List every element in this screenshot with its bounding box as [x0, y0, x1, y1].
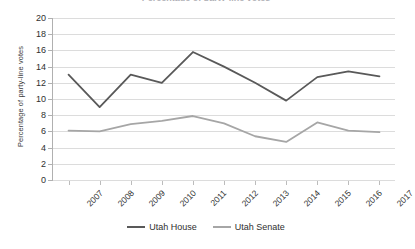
y-axis-tick-mark — [48, 83, 53, 84]
legend-item-utah-house[interactable]: Utah House — [127, 222, 197, 232]
legend-swatch-icon — [213, 226, 231, 228]
series-layer — [53, 18, 395, 180]
x-axis-tick-mark — [286, 181, 287, 185]
legend-swatch-icon — [127, 226, 145, 228]
x-axis-tick-label: 2015 — [333, 188, 353, 208]
y-axis-tick-mark — [48, 131, 53, 132]
y-axis-tick-mark — [48, 180, 53, 181]
y-axis-tick-label: 2 — [10, 159, 46, 169]
y-axis-tick-label: 20 — [10, 13, 46, 23]
x-axis-tick-mark — [131, 181, 132, 185]
x-axis-tick-mark — [348, 181, 349, 185]
x-axis-tick-mark — [69, 181, 70, 185]
y-axis-tick-label: 16 — [10, 45, 46, 55]
y-axis-tick-label: 18 — [10, 29, 46, 39]
x-axis-tick-label: 2017 — [395, 188, 415, 208]
y-axis-tick-mark — [48, 34, 53, 35]
chart-title-cropped: Percentage of party-line votes — [0, 0, 412, 1]
x-axis-tick-label: 2016 — [364, 188, 384, 208]
x-axis-tick-label: 2009 — [146, 188, 166, 208]
x-axis-tick-mark — [193, 181, 194, 185]
x-axis-tick-label: 2014 — [302, 188, 322, 208]
legend-label: Utah Senate — [235, 222, 285, 232]
series-line-utah-senate — [69, 116, 380, 142]
y-axis-tick-mark — [48, 67, 53, 68]
x-axis-tick-mark — [255, 181, 256, 185]
y-axis-tick-label: 4 — [10, 143, 46, 153]
y-axis-tick-mark — [48, 99, 53, 100]
x-axis-tick-label: 2012 — [240, 188, 260, 208]
x-axis-tick-label: 2008 — [115, 188, 135, 208]
y-axis-tick-mark — [48, 148, 53, 149]
y-axis-tick-mark — [48, 50, 53, 51]
y-axis-tick-label: 10 — [10, 94, 46, 104]
y-axis-tick-mark — [48, 18, 53, 19]
y-axis-tick-mark — [48, 115, 53, 116]
x-axis-tick-mark — [224, 181, 225, 185]
y-axis-tick-label: 8 — [10, 110, 46, 120]
y-axis-tick-label: 12 — [10, 78, 46, 88]
x-axis-tick-mark — [162, 181, 163, 185]
x-axis-tick-mark — [317, 181, 318, 185]
y-axis-tick-label: 0 — [10, 175, 46, 185]
legend-item-utah-senate[interactable]: Utah Senate — [213, 222, 285, 232]
plot-area — [53, 18, 395, 180]
x-axis-tick-mark — [379, 181, 380, 185]
chart-legend: Utah HouseUtah Senate — [0, 222, 412, 232]
y-axis-tick-label: 6 — [10, 126, 46, 136]
x-axis-tick-label: 2011 — [208, 188, 228, 208]
y-axis-tick-label: 14 — [10, 62, 46, 72]
x-axis-tick-label: 2013 — [271, 188, 291, 208]
x-axis-tick-mark — [100, 181, 101, 185]
x-axis-tick-label: 2010 — [177, 188, 197, 208]
series-line-utah-house — [69, 52, 380, 107]
y-axis-tick-labels: 20181614121086420 — [6, 18, 46, 180]
legend-label: Utah House — [149, 222, 197, 232]
y-axis-tick-mark — [48, 164, 53, 165]
x-axis-tick-label: 2007 — [84, 188, 104, 208]
